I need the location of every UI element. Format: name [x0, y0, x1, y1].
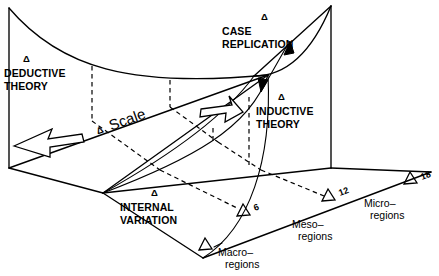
scale-label: Δ Scale [93, 105, 147, 139]
internal-variation-line2: VARIATION [120, 214, 177, 226]
dash-to-tick-12 [261, 170, 324, 196]
internal-variation-delta-icon: Δ [151, 187, 158, 198]
micro-regions-label: Micro– regions [364, 197, 404, 221]
micro-regions-line1: Micro– [364, 197, 396, 209]
internal-variation-line1: INTERNAL [120, 201, 174, 213]
floor-right-edge [331, 168, 431, 172]
axis-tick-12: 12 [322, 185, 350, 201]
tick-triangle-6 [237, 204, 250, 216]
meso-regions-line2: regions [298, 230, 332, 242]
dash-mid-segment [218, 142, 261, 170]
axis-tick-6: 6 [237, 202, 260, 216]
macro-regions-label: Macro– regions [218, 246, 259, 270]
tick-label-6: 6 [252, 202, 260, 213]
tick-label-12: 12 [337, 185, 350, 198]
scale-theory-diagram: 6 12 18 Δ DEDUCTIVE THEORY Δ CASE REPLIC… [0, 0, 439, 276]
decreasing-scale-arrow [14, 129, 84, 157]
deductive-theory-line1: DEDUCTIVE [4, 67, 66, 79]
scale-plane-wedge-curve [103, 76, 254, 193]
replication-curve [203, 75, 268, 258]
meso-regions-line1: Meso– [292, 218, 324, 230]
deductive-theory-delta-icon: Δ [23, 53, 30, 64]
scale-label-text: Scale [107, 105, 148, 134]
inductive-theory-line1: INDUCTIVE [256, 105, 314, 117]
left-wall-bottom-edge [9, 168, 103, 193]
case-replication-line2: REPLICATION [222, 38, 294, 50]
diagram-canvas: 6 12 18 Δ DEDUCTIVE THEORY Δ CASE REPLIC… [0, 0, 439, 276]
floor-back-edge [103, 168, 331, 193]
macro-regions-line1: Macro– [218, 246, 253, 258]
scale-plane-ridge [103, 75, 268, 193]
deductive-theory-label: Δ DEDUCTIVE THEORY [4, 53, 66, 92]
case-replication-line1: CASE [222, 25, 252, 37]
case-replication-floor-curve [203, 75, 268, 258]
replication-arrow-head-down [258, 78, 268, 92]
projection-lines [92, 66, 324, 208]
meso-regions-label: Meso– regions [292, 218, 332, 242]
tick-triangle-12 [322, 189, 335, 201]
inductive-theory-label: Δ INDUCTIVE THEORY [256, 91, 314, 130]
scale-arrow-left-head [14, 129, 84, 157]
case-replication-delta-icon: Δ [261, 11, 268, 22]
scale-delta-icon: Δ [95, 124, 105, 137]
deductive-theory-line2: THEORY [4, 80, 48, 92]
internal-variation-label: Δ INTERNAL VARIATION [120, 187, 177, 226]
inductive-theory-delta-icon: Δ [278, 91, 285, 102]
inductive-theory-line2: THEORY [256, 118, 300, 130]
macro-regions-line2: regions [225, 258, 259, 270]
scale-arrow-right-head [200, 96, 243, 122]
tick-label-18: 18 [419, 169, 432, 182]
micro-regions-line2: regions [370, 209, 404, 221]
case-replication-label: Δ CASE REPLICATION [222, 11, 294, 50]
tick-triangle-0 [199, 238, 212, 250]
increasing-scale-arrow [200, 96, 243, 122]
